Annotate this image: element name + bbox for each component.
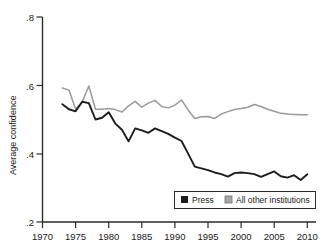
chart-container: Average confidence .8 .6 .4 .2 (0, 0, 324, 251)
legend-swatch-press (181, 196, 188, 203)
x-tick-label-1985: 1985 (131, 231, 152, 242)
legend-swatch-all-other-institutions (225, 196, 232, 203)
x-axis-ticks: 1970 1975 1980 1985 1990 1995 2000 2005 … (32, 222, 318, 242)
x-tick-label-1990: 1990 (164, 231, 185, 242)
x-tick-label-2000: 2000 (231, 231, 252, 242)
x-tick-label-1995: 1995 (197, 231, 218, 242)
y-tick-label-0: .8 (26, 12, 34, 23)
y-tick-label-2: .4 (26, 149, 34, 160)
legend-label-press: Press (192, 195, 214, 205)
x-tick-label-1980: 1980 (98, 231, 119, 242)
chart-legend: Press All other institutions (175, 192, 316, 209)
series-line-all-other-institutions (62, 86, 307, 118)
confidence-line-chart: Average confidence .8 .6 .4 .2 (0, 0, 324, 251)
x-tick-label-1975: 1975 (65, 231, 86, 242)
legend-label-all-other-institutions: All other institutions (236, 195, 310, 205)
series-line-press (62, 102, 307, 180)
y-axis-title: Average confidence (8, 96, 18, 175)
y-tick-label-3: .2 (26, 217, 34, 228)
y-axis-ticks: .8 .6 .4 .2 (26, 12, 42, 228)
y-tick-label-1: .6 (26, 81, 34, 92)
x-tick-label-2010: 2010 (297, 231, 318, 242)
x-tick-label-2005: 2005 (264, 231, 285, 242)
x-tick-label-1970: 1970 (32, 231, 53, 242)
